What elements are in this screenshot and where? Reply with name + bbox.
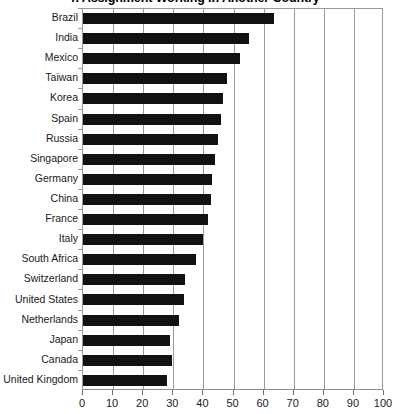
bar xyxy=(83,73,227,84)
value-tick xyxy=(202,390,203,395)
value-tick xyxy=(323,390,324,395)
category-label: India xyxy=(0,32,78,43)
value-tick-label: 0 xyxy=(67,397,97,409)
value-tick-label: 10 xyxy=(97,397,127,409)
category-label: China xyxy=(0,193,78,204)
bar-row xyxy=(83,311,384,331)
bar xyxy=(83,234,203,245)
category-label: Germany xyxy=(0,173,78,184)
category-label: Russia xyxy=(0,133,78,144)
bar-row xyxy=(83,130,384,150)
category-label: Korea xyxy=(0,92,78,103)
bar-row xyxy=(83,9,384,29)
value-tick xyxy=(293,390,294,395)
category-label: Brazil xyxy=(0,12,78,23)
bar-row xyxy=(83,110,384,130)
bar xyxy=(83,53,240,64)
bar-row xyxy=(83,351,384,371)
category-label: Canada xyxy=(0,354,78,365)
bar xyxy=(83,33,249,44)
bar xyxy=(83,194,211,205)
bar-row xyxy=(83,89,384,109)
value-tick-label: 20 xyxy=(127,397,157,409)
chart-title: n Assignment Working in Another Country xyxy=(0,0,391,5)
bar xyxy=(83,355,172,366)
category-label: Japan xyxy=(0,334,78,345)
bar xyxy=(83,274,185,285)
bar-row xyxy=(83,190,384,210)
bar-row xyxy=(83,170,384,190)
plot-area xyxy=(82,8,383,390)
value-tick-label: 90 xyxy=(338,397,368,409)
value-tick xyxy=(233,390,234,395)
value-tick-label: 100 xyxy=(368,397,397,409)
bar-series xyxy=(83,9,382,389)
value-tick-label: 70 xyxy=(278,397,308,409)
category-label: Spain xyxy=(0,113,78,124)
value-tick xyxy=(263,390,264,395)
bar xyxy=(83,154,215,165)
bar xyxy=(83,335,170,346)
category-label: Switzerland xyxy=(0,273,78,284)
value-tick xyxy=(172,390,173,395)
bar-row xyxy=(83,29,384,49)
bar xyxy=(83,315,179,326)
category-axis: BrazilIndiaMexicoTaiwanKoreaSpainRussiaS… xyxy=(0,8,78,390)
bar xyxy=(83,134,218,145)
bar xyxy=(83,93,223,104)
bar xyxy=(83,375,167,386)
bar-row xyxy=(83,290,384,310)
category-label: Mexico xyxy=(0,52,78,63)
category-label: Taiwan xyxy=(0,72,78,83)
value-tick-label: 50 xyxy=(218,397,248,409)
value-tick xyxy=(142,390,143,395)
value-tick-label: 40 xyxy=(187,397,217,409)
value-tick xyxy=(353,390,354,395)
category-label: South Africa xyxy=(0,253,78,264)
bar xyxy=(83,214,208,225)
bar-row xyxy=(83,210,384,230)
bar xyxy=(83,13,274,24)
bar-row xyxy=(83,69,384,89)
value-tick xyxy=(82,390,83,395)
bar xyxy=(83,254,196,265)
value-tick-label: 30 xyxy=(157,397,187,409)
category-label: Netherlands xyxy=(0,314,78,325)
category-label: United States xyxy=(0,294,78,305)
bar xyxy=(83,114,221,125)
bar-row xyxy=(83,230,384,250)
bar-row xyxy=(83,331,384,351)
bar xyxy=(83,294,184,305)
category-label: Italy xyxy=(0,233,78,244)
bar-row xyxy=(83,150,384,170)
bar xyxy=(83,174,212,185)
bar-row xyxy=(83,49,384,69)
value-tick xyxy=(383,390,384,395)
value-tick xyxy=(112,390,113,395)
bar-row xyxy=(83,270,384,290)
category-label: Singapore xyxy=(0,153,78,164)
value-tick-label: 80 xyxy=(308,397,338,409)
value-axis: 0102030405060708090100 xyxy=(82,390,383,414)
bar-row xyxy=(83,371,384,391)
value-tick-label: 60 xyxy=(248,397,278,409)
category-label: France xyxy=(0,213,78,224)
category-label: United Kingdom xyxy=(0,374,78,385)
bar-row xyxy=(83,250,384,270)
